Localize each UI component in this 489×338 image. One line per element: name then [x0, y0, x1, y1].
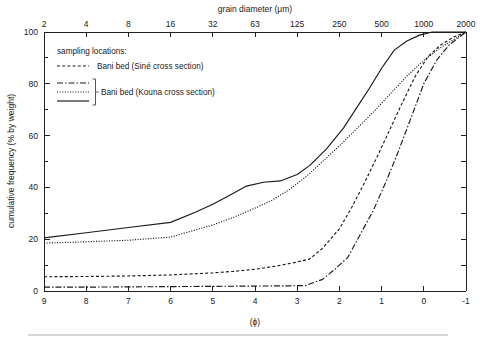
- top-tick-label-1000: 1000: [414, 19, 433, 29]
- top-tick-label-4: 4: [84, 19, 89, 29]
- y-axis-title: cumulative frequency (% by weight): [6, 94, 16, 228]
- bottom-axis-ticks: 9876543210-1: [42, 286, 470, 306]
- top-tick-label-63: 63: [250, 19, 260, 29]
- right-axis-ticks: [461, 32, 466, 291]
- legend-label-kouna: Bani bed (Kouna cross section): [101, 88, 215, 97]
- left-tick-label-60: 60: [29, 131, 39, 141]
- bottom-tick-label-0: 0: [421, 296, 426, 306]
- top-tick-label-250: 250: [332, 19, 346, 29]
- cropped-caption-remnant: [28, 334, 448, 336]
- top-tick-label-32: 32: [208, 19, 218, 29]
- left-tick-label-0: 0: [33, 286, 38, 296]
- bottom-tick-label-9: 9: [42, 296, 47, 306]
- top-axis-title: grain diameter (μm): [218, 4, 293, 14]
- x-axis-title: (ϕ): [250, 317, 261, 327]
- top-tick-label-2000: 2000: [457, 19, 476, 29]
- left-tick-label-20: 20: [29, 234, 39, 244]
- top-tick-label-16: 16: [166, 19, 176, 29]
- top-axis-ticks: 24816326312525050010002000: [42, 19, 476, 37]
- legend-group-bracket: [93, 79, 96, 105]
- bottom-tick-label-8: 8: [84, 296, 89, 306]
- figure-container: grain diameter (μm) 24816326312525050010…: [0, 0, 489, 338]
- top-tick-label-125: 125: [290, 19, 304, 29]
- bottom-tick-label-4: 4: [253, 296, 258, 306]
- top-tick-label-500: 500: [375, 19, 389, 29]
- bottom-tick-label-2: 2: [337, 296, 342, 306]
- legend: sampling locations: Bani bed (Siné cross…: [57, 47, 215, 105]
- bottom-tick-label-1: 1: [379, 296, 384, 306]
- legend-title: sampling locations:: [57, 47, 127, 56]
- bottom-tick-label-3: 3: [295, 296, 300, 306]
- bottom-tick-label-7: 7: [126, 296, 131, 306]
- left-tick-label-40: 40: [29, 182, 39, 192]
- top-tick-label-8: 8: [126, 19, 131, 29]
- left-tick-label-80: 80: [29, 79, 39, 89]
- grain-size-distribution-chart: grain diameter (μm) 24816326312525050010…: [0, 0, 489, 338]
- legend-label-sine: Bani bed (Siné cross section): [97, 62, 204, 71]
- bottom-tick-label-6: 6: [168, 296, 173, 306]
- top-tick-label-2: 2: [42, 19, 47, 29]
- left-tick-label-100: 100: [24, 27, 38, 37]
- left-axis-ticks: 020406080100: [24, 27, 50, 296]
- bottom-tick-label-5: 5: [210, 296, 215, 306]
- bottom-tick-label--1: -1: [462, 296, 470, 306]
